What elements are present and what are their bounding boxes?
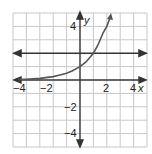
y-tick-4: 4: [70, 21, 76, 32]
y-tick-neg2: −2: [64, 102, 77, 113]
curve-exponential: [18, 13, 113, 80]
x-tick-neg4: −4: [13, 83, 26, 94]
x-tick-2: 2: [103, 83, 109, 94]
y-tick-neg4: −4: [64, 128, 77, 139]
x-axis-label: x: [138, 83, 144, 94]
x-tick-4: 4: [130, 83, 136, 94]
y-axis-label: y: [84, 15, 90, 26]
x-tick-neg2: −2: [40, 83, 53, 94]
